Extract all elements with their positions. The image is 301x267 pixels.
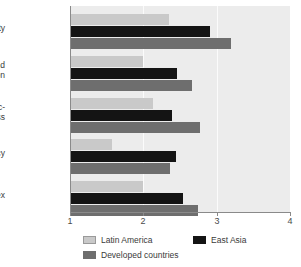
legend-label-developed-countries: Developed countries bbox=[101, 250, 179, 260]
legend-entry-developed-countries: Developed countries bbox=[83, 250, 179, 260]
bar-policy-index-latin-america bbox=[70, 181, 143, 192]
bar-public-regardedness-developed-countries bbox=[70, 122, 200, 133]
legend: Latin America East Asia Developed countr… bbox=[0, 232, 301, 267]
bar-efficiency-developed-countries bbox=[70, 163, 170, 174]
bar-chart: 1 2 3 4 Stability Enforcement and implem… bbox=[0, 0, 301, 267]
legend-swatch-east-asia bbox=[193, 236, 206, 244]
y-axis-spine bbox=[70, 6, 71, 212]
bar-public-regardedness-latin-america bbox=[70, 98, 153, 109]
y-axis-label-enforcement: Enforcement and implementation bbox=[0, 60, 5, 80]
bar-efficiency-east-asia bbox=[70, 151, 176, 162]
bar-enforcement-developed-countries bbox=[70, 80, 192, 91]
legend-label-latin-america: Latin America bbox=[101, 235, 153, 245]
legend-swatch-latin-america bbox=[83, 236, 96, 244]
bar-stability-developed-countries bbox=[70, 38, 231, 49]
gridline-3 bbox=[217, 6, 218, 212]
y-axis-label-policy-index: Policy index bbox=[0, 190, 5, 200]
y-axis-label-public-regardedness: Public- regardedness bbox=[0, 102, 5, 122]
y-axis-label-efficiency: Efficiency bbox=[0, 148, 5, 158]
bar-public-regardedness-east-asia bbox=[70, 110, 172, 121]
y-axis-label-stability: Stability bbox=[0, 23, 5, 33]
x-tick-label-1: 1 bbox=[60, 216, 80, 227]
bar-policy-index-developed-countries bbox=[70, 205, 198, 216]
x-tick-label-3: 3 bbox=[207, 216, 227, 227]
legend-entry-east-asia: East Asia bbox=[193, 235, 246, 245]
bar-stability-east-asia bbox=[70, 26, 210, 37]
x-tick-label-4: 4 bbox=[280, 216, 300, 227]
plot-area bbox=[70, 6, 290, 212]
bar-stability-latin-america bbox=[70, 14, 169, 25]
bar-policy-index-east-asia bbox=[70, 193, 183, 204]
bar-enforcement-latin-america bbox=[70, 56, 143, 67]
x-tick-label-2: 2 bbox=[133, 216, 153, 227]
legend-entry-latin-america: Latin America bbox=[83, 235, 153, 245]
legend-label-east-asia: East Asia bbox=[211, 235, 246, 245]
bar-efficiency-latin-america bbox=[70, 139, 112, 150]
x-axis-spine bbox=[70, 212, 291, 213]
legend-swatch-developed-countries bbox=[83, 251, 96, 259]
bar-enforcement-east-asia bbox=[70, 68, 177, 79]
